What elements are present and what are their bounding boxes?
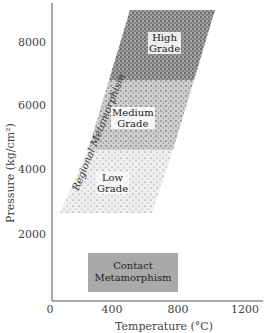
- y-tick-2000: 2000: [6, 228, 46, 241]
- x-tick-1200: 1200: [225, 303, 265, 316]
- x-tick-0: 0: [30, 303, 70, 316]
- contact-label-line2: Metamorphism: [88, 272, 178, 284]
- medium-grade-label-line1: Medium: [112, 107, 154, 118]
- high-grade-label: High Grade: [148, 32, 181, 54]
- high-grade-label-line2: Grade: [149, 43, 180, 54]
- x-axis-label: Temperature (°C): [115, 320, 213, 333]
- x-tick-400: 400: [92, 303, 132, 316]
- low-grade-label-line2: Grade: [97, 183, 128, 194]
- y-tick-6000: 6000: [6, 99, 46, 112]
- medium-grade-label: Medium Grade: [111, 107, 155, 129]
- y-axis-label: Pressure (kg/cm²): [4, 123, 17, 223]
- low-grade-label-line1: Low: [97, 172, 128, 183]
- x-tick-800: 800: [158, 303, 198, 316]
- medium-grade-label-line2: Grade: [112, 118, 154, 129]
- low-grade-label: Low Grade: [96, 172, 129, 194]
- contact-label-line1: Contact: [88, 260, 178, 272]
- contact-metamorphism-label: Contact Metamorphism: [88, 260, 178, 284]
- high-grade-label-line1: High: [149, 32, 180, 43]
- y-tick-8000: 8000: [6, 36, 46, 49]
